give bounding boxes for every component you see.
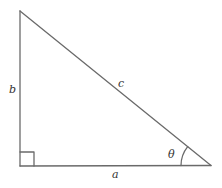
angle-theta-arc-icon — [181, 147, 188, 166]
label-c: c — [118, 77, 124, 90]
hypotenuse-c-line — [20, 11, 211, 166]
side-a-line — [20, 166, 211, 167]
label-a: a — [112, 168, 119, 181]
right-angle-marker-icon — [20, 152, 34, 166]
label-b: b — [9, 83, 16, 96]
right-triangle-diagram: b c a θ — [0, 0, 222, 188]
label-theta: θ — [168, 148, 175, 161]
